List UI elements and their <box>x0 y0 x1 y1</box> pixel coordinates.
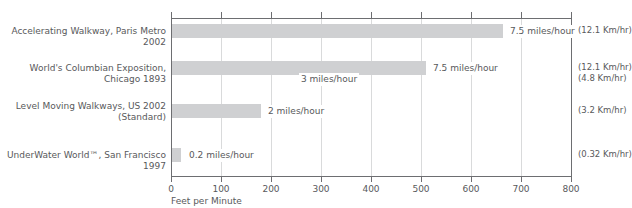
x-tick-label-800: 800 <box>562 184 579 194</box>
kmh-annotation-underwater-world-san-francisco: (0.32 Km/hr) <box>578 149 632 160</box>
x-tick-label-0: 0 <box>168 184 174 194</box>
tick-bottom-100 <box>221 176 222 182</box>
bar-accelerating-walkway-paris <box>172 24 503 38</box>
gridline-700 <box>521 19 522 176</box>
gridline-300 <box>321 19 322 176</box>
gridline-200 <box>271 19 272 176</box>
value-label-columbian-exposition-secondary: 3 miles/hour <box>299 73 359 86</box>
value-label-level-moving-walkways-us: 2 miles/hour <box>266 105 326 118</box>
bar-level-moving-walkways-us <box>172 104 261 118</box>
tick-top-800 <box>571 12 572 19</box>
tick-bottom-600 <box>471 176 472 182</box>
tick-bottom-500 <box>421 176 422 182</box>
x-tick-label-100: 100 <box>212 184 229 194</box>
tick-top-400 <box>371 12 372 19</box>
value-label-accelerating-walkway-paris: 7.5 miles/hour <box>508 25 577 38</box>
tick-bottom-400 <box>371 176 372 182</box>
tick-bottom-800 <box>571 176 572 182</box>
x-tick-label-700: 700 <box>512 184 529 194</box>
x-tick-label-400: 400 <box>362 184 379 194</box>
x-tick-label-200: 200 <box>262 184 279 194</box>
x-tick-label-300: 300 <box>312 184 329 194</box>
tick-top-100 <box>221 12 222 19</box>
tick-bottom-200 <box>271 176 272 182</box>
category-label-columbian-exposition-chicago: World's Columbian Exposition, Chicago 18… <box>0 63 166 85</box>
tick-top-700 <box>521 12 522 19</box>
category-label-level-moving-walkways-us: Level Moving Walkways, US 2002 (Standard… <box>0 101 166 123</box>
tick-top-300 <box>321 12 322 19</box>
x-axis-title: Feet per Minute <box>171 196 242 206</box>
gridline-500 <box>421 19 422 176</box>
category-label-underwater-world-san-francisco: UnderWater World™, San Francisco 1997 <box>0 150 166 172</box>
kmh-annotation-level-moving-walkways-us: (3.2 Km/hr) <box>578 105 626 116</box>
tick-top-200 <box>271 12 272 19</box>
bar-underwater-world-san-francisco <box>172 148 181 162</box>
gridline-400 <box>371 19 372 176</box>
tick-bottom-300 <box>321 176 322 182</box>
value-label-underwater-world-san-francisco: 0.2 miles/hour <box>187 149 256 162</box>
x-tick-label-600: 600 <box>462 184 479 194</box>
kmh-annotation-columbian-exposition-chicago: (12.1 Km/hr) (4.8 Km/hr) <box>578 62 632 84</box>
category-label-accelerating-walkway-paris: Accelerating Walkway, Paris Metro 2002 <box>0 26 166 48</box>
tick-top-600 <box>471 12 472 19</box>
x-tick-label-500: 500 <box>412 184 429 194</box>
gridline-600 <box>471 19 472 176</box>
walkway-speed-bar-chart: 0 100 200 300 400 500 600 700 800 Accele… <box>0 0 632 208</box>
tick-top-0 <box>171 12 172 19</box>
tick-bottom-700 <box>521 176 522 182</box>
kmh-annotation-accelerating-walkway-paris: (12.1 Km/hr) <box>578 25 632 36</box>
value-label-columbian-exposition-chicago: 7.5 miles/hour <box>431 62 500 75</box>
plot-border-right <box>571 18 572 176</box>
tick-bottom-0 <box>171 176 172 182</box>
tick-top-500 <box>421 12 422 19</box>
